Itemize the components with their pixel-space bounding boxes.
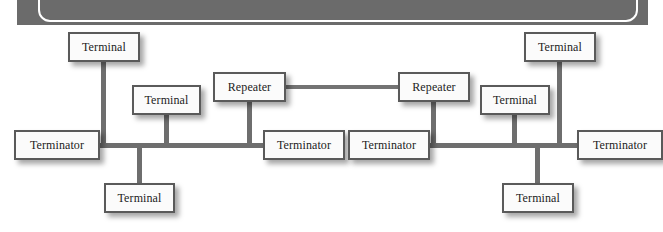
node-label: Terminator [362, 139, 416, 152]
node-label: Terminator [593, 139, 647, 152]
node-terminal-top-left[interactable]: Terminal [68, 32, 140, 62]
node-terminator-mid-left[interactable]: Terminator [263, 130, 345, 160]
drop-line-repeater-right [431, 101, 436, 145]
node-repeater-right[interactable]: Repeater [398, 72, 470, 102]
node-terminal-upper-left-2[interactable]: Terminal [132, 85, 201, 115]
node-label: Terminal [145, 94, 189, 107]
node-terminator-far-right[interactable]: Terminator [577, 130, 663, 160]
network-diagram-canvas: Terminal Terminal Repeater Repeater Term… [0, 0, 663, 232]
drop-line-terminal-bottom-right [535, 146, 540, 184]
node-label: Terminator [277, 139, 331, 152]
drop-line-terminal-mid-right [512, 114, 517, 145]
node-label: Terminator [30, 139, 84, 152]
node-label: Terminal [516, 192, 560, 205]
drop-line-terminal-upper-left-2 [164, 114, 169, 145]
node-label: Repeater [412, 81, 455, 94]
node-terminator-mid-right[interactable]: Terminator [348, 130, 430, 160]
node-label: Terminal [493, 94, 537, 107]
repeater-interconnect-line [284, 85, 400, 89]
drop-line-repeater-left [247, 101, 252, 145]
node-terminal-bottom-left[interactable]: Terminal [104, 183, 175, 213]
drop-line-terminal-top-left [101, 61, 106, 145]
node-terminal-mid-right[interactable]: Terminal [480, 85, 550, 115]
node-label: Terminal [538, 41, 582, 54]
header-banner-outline [38, 0, 638, 22]
node-label: Terminal [118, 192, 162, 205]
node-terminal-top-right[interactable]: Terminal [524, 32, 596, 62]
drop-line-terminal-top-right [557, 61, 562, 145]
header-banner [17, 0, 648, 25]
node-label: Terminal [82, 41, 126, 54]
node-terminal-bottom-right[interactable]: Terminal [502, 183, 574, 213]
node-repeater-left[interactable]: Repeater [213, 72, 286, 102]
node-terminator-far-left[interactable]: Terminator [14, 130, 100, 160]
node-label: Repeater [228, 81, 271, 94]
drop-line-terminal-bottom-left [137, 146, 142, 184]
